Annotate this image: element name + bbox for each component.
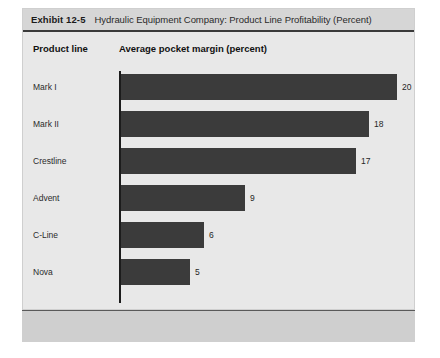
column-headers: Product line Average pocket margin (perc… (23, 43, 414, 59)
bar-value-label: 9 (250, 185, 255, 211)
column-header-average-pocket-margin: Average pocket margin (percent) (119, 43, 267, 54)
bar-value-label: 18 (374, 111, 383, 137)
bar-category-label: C-Line (33, 222, 58, 248)
bar (121, 185, 245, 211)
bar-row: Mark II18 (23, 111, 414, 137)
bar-category-label: Advent (33, 185, 59, 211)
exhibit-title: Hydraulic Equipment Company: Product Lin… (95, 14, 372, 25)
footer-band (22, 310, 415, 342)
exhibit-number: Exhibit 12-5 (31, 14, 86, 25)
exhibit-panel: Exhibit 12-5 Hydraulic Equipment Company… (22, 8, 415, 310)
column-header-product-line: Product line (33, 43, 88, 54)
bar (121, 222, 204, 248)
bar-row: Mark I20 (23, 74, 414, 100)
bar-row: Advent9 (23, 185, 414, 211)
bar-row: Nova5 (23, 259, 414, 285)
bar-row: Crestline17 (23, 148, 414, 174)
bar (121, 148, 356, 174)
bar-value-label: 6 (209, 222, 214, 248)
bar-row: C-Line6 (23, 222, 414, 248)
bar-chart: Mark I20Mark II18Crestline17Advent9C-Lin… (23, 67, 414, 309)
bar-category-label: Mark I (33, 74, 57, 100)
bar-category-label: Crestline (33, 148, 67, 174)
bar-value-label: 20 (402, 74, 411, 100)
bar (121, 111, 369, 137)
bar (121, 74, 397, 100)
bar-value-label: 17 (361, 148, 370, 174)
bar-value-label: 5 (195, 259, 200, 285)
exhibit-header: Exhibit 12-5 Hydraulic Equipment Company… (23, 9, 414, 32)
bar (121, 259, 190, 285)
bar-category-label: Nova (33, 259, 53, 285)
bar-category-label: Mark II (33, 111, 59, 137)
